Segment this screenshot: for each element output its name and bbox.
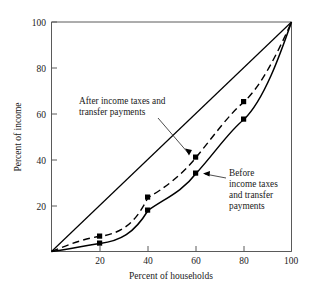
before-annotation-line-1: Before <box>229 168 254 178</box>
data-point-marker <box>193 171 198 176</box>
before-annotation-line-4: payments <box>229 201 265 211</box>
data-point-marker <box>97 241 102 246</box>
y-tick-label: 60 <box>37 110 47 120</box>
x-axis-title: Percent of households <box>129 271 213 281</box>
y-axis-tick-labels: 100 80 60 40 20 <box>32 18 47 212</box>
after-annotation-line-1: After income taxes and <box>79 96 166 106</box>
before-annotation-line-3: and transfer <box>229 190 274 200</box>
after-annotation-leader <box>158 118 192 156</box>
series-equality-line <box>52 22 292 252</box>
data-point-marker <box>193 155 198 160</box>
data-point-marker <box>241 117 246 122</box>
x-tick-label: 100 <box>284 256 299 266</box>
y-tick-label: 80 <box>37 64 47 74</box>
before-annotation-leader <box>203 171 226 178</box>
y-axis-title: Percent of income <box>13 102 23 171</box>
x-tick-label: 60 <box>191 256 201 266</box>
after-annotation-text: After income taxes and transfer payments <box>79 96 166 117</box>
before-annotation-line-2: income taxes <box>229 179 278 189</box>
after-taxes-markers <box>97 99 246 239</box>
chart-canvas: 100 80 60 40 20 20 40 60 80 100 Percent … <box>0 0 312 293</box>
x-tick-label: 80 <box>239 256 249 266</box>
x-axis-tick-labels: 20 40 60 80 100 <box>95 256 298 266</box>
y-tick-label: 100 <box>32 18 47 28</box>
data-point-marker <box>97 234 102 239</box>
y-axis-ticks <box>52 22 58 206</box>
y-tick-label: 40 <box>37 156 47 166</box>
after-annotation-line-2: transfer payments <box>79 107 146 117</box>
before-annotation-text: Before income taxes and transfer payment… <box>229 168 278 211</box>
y-tick-label: 20 <box>37 202 47 212</box>
x-axis-ticks <box>100 246 292 252</box>
data-point-marker <box>145 208 150 213</box>
lorenz-curve-chart: 100 80 60 40 20 20 40 60 80 100 Percent … <box>0 0 312 293</box>
x-tick-label: 40 <box>143 256 153 266</box>
data-point-marker <box>241 99 246 104</box>
data-point-marker <box>145 195 150 200</box>
x-tick-label: 20 <box>95 256 105 266</box>
